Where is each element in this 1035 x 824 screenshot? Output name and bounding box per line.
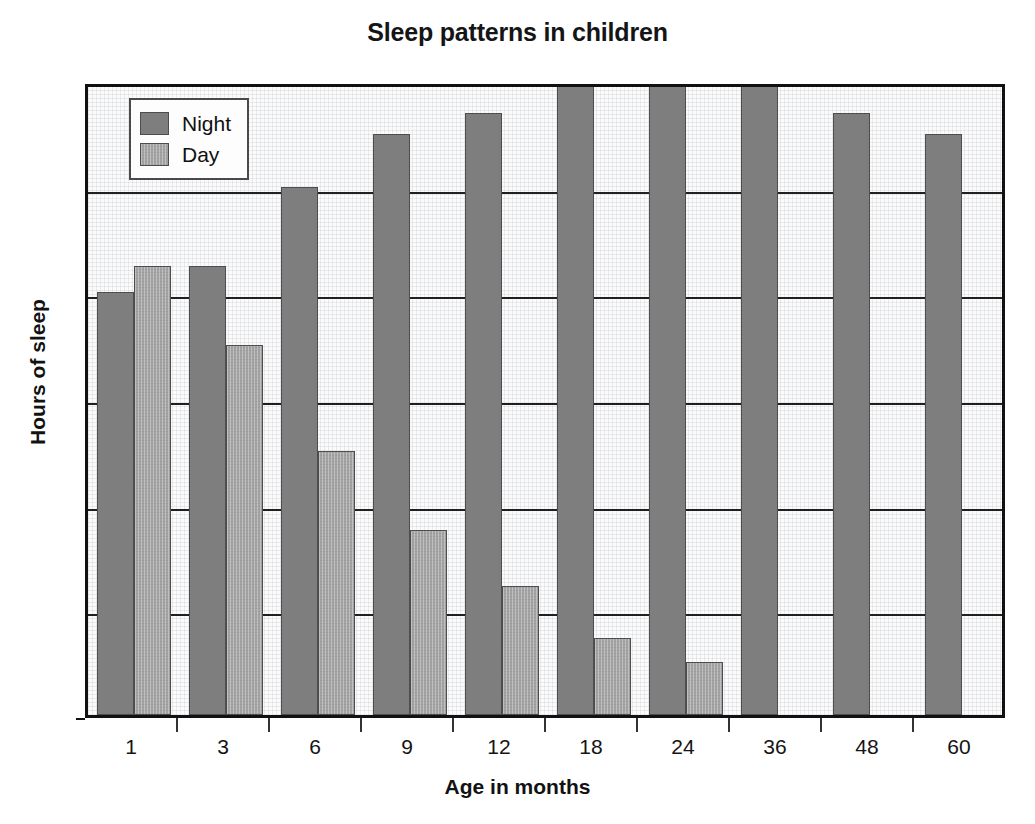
legend-swatch-night-icon (140, 112, 169, 135)
bar-night-60[interactable] (925, 134, 962, 715)
x-axis-tick-label: 12 (454, 735, 544, 759)
bar-night-36[interactable] (741, 84, 778, 715)
bar-night-9[interactable] (373, 134, 410, 715)
x-axis-tick-mark (176, 718, 178, 732)
y-axis-label: Hours of sleep (26, 272, 50, 472)
x-axis-tick-label: 24 (638, 735, 728, 759)
bar-night-18[interactable] (557, 84, 594, 715)
bar-day-18[interactable] (594, 638, 631, 715)
x-axis-tick-mark (452, 718, 454, 732)
legend-label-day: Day (182, 144, 219, 165)
bar-day-6[interactable] (318, 451, 355, 715)
x-axis-tick-mark (728, 718, 730, 732)
bar-day-12[interactable] (502, 586, 539, 715)
x-axis-tick-mark (636, 718, 638, 732)
x-axis-label: Age in months (0, 775, 1035, 799)
x-axis-tick-label: 36 (730, 735, 820, 759)
legend-item-night[interactable]: Night (140, 108, 231, 139)
x-axis-tick-label: 18 (546, 735, 636, 759)
x-axis-tick-label: 3 (178, 735, 268, 759)
bar-night-24[interactable] (649, 84, 686, 715)
bar-day-1[interactable] (134, 266, 171, 715)
y-axis-tick-mark (76, 718, 85, 720)
bar-night-3[interactable] (189, 266, 226, 715)
legend-label-night: Night (182, 113, 231, 134)
bar-day-24[interactable] (686, 662, 723, 715)
x-axis-tick-mark (820, 718, 822, 732)
bar-night-6[interactable] (281, 187, 318, 715)
x-axis-tick-mark (912, 718, 914, 732)
chart-title: Sleep patterns in children (0, 18, 1035, 47)
legend-swatch-day-icon (140, 143, 169, 166)
x-axis-tick-label: 6 (270, 735, 360, 759)
bar-night-48[interactable] (833, 113, 870, 715)
x-axis-tick-mark (360, 718, 362, 732)
x-axis-tick-label: 9 (362, 735, 452, 759)
x-axis-tick-mark (544, 718, 546, 732)
x-axis-tick-label: 48 (822, 735, 912, 759)
chart-legend: Night Day (129, 98, 249, 180)
x-axis-tick-label: 60 (914, 735, 1004, 759)
x-axis-tick-label: 1 (86, 735, 176, 759)
bar-day-9[interactable] (410, 530, 447, 715)
bar-night-12[interactable] (465, 113, 502, 715)
bar-day-3[interactable] (226, 345, 263, 715)
bar-night-1[interactable] (97, 292, 134, 715)
x-axis-tick-mark (268, 718, 270, 732)
legend-item-day[interactable]: Day (140, 139, 231, 170)
